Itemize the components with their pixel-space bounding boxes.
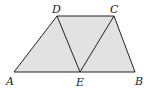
trapezoid-diagram: A E B C D [0,0,144,88]
label-c: C [110,3,119,16]
label-a: A [5,75,14,88]
label-e: E [75,76,84,88]
label-b: B [134,75,143,88]
label-d: D [51,3,61,16]
